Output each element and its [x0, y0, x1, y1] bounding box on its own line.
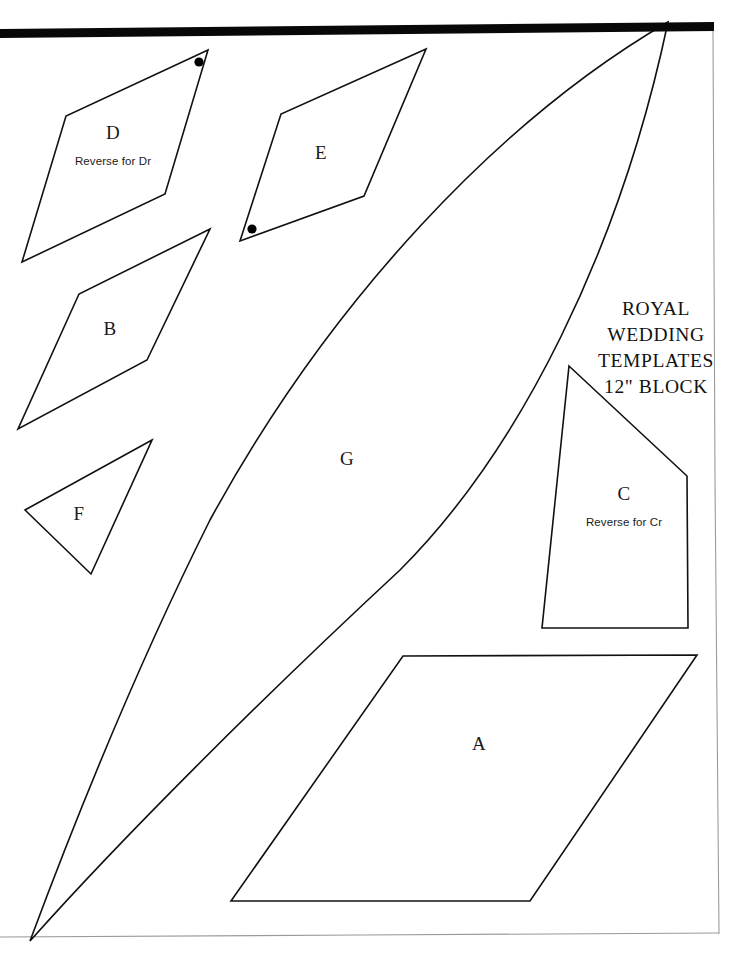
template-piece-b[interactable]	[18, 229, 210, 429]
template-piece-c[interactable]	[542, 366, 688, 628]
page-bottom-edge	[0, 933, 719, 937]
template-piece-a[interactable]	[231, 655, 697, 901]
template-piece-d[interactable]	[22, 50, 208, 262]
scanner-edge-bar	[0, 22, 714, 38]
template-sheet-page: D Reverse for Dr E B F G C Reverse for C…	[0, 0, 738, 955]
template-shapes-canvas	[0, 0, 738, 955]
template-piece-f[interactable]	[25, 440, 152, 574]
registration-dot-e	[247, 224, 256, 233]
template-piece-e[interactable]	[240, 49, 426, 241]
registration-dot-d	[194, 57, 203, 66]
page-right-edge	[713, 31, 719, 934]
